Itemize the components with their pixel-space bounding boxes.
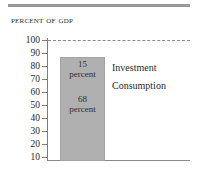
bar-segment-label-investment-value: 15 — [60, 59, 105, 70]
y-tick-label-40: 40 — [31, 112, 41, 124]
y-tick-mark — [42, 105, 47, 106]
y-tick-label-70: 70 — [31, 73, 41, 85]
y-axis-ticks: 100 90 80 70 60 50 40 30 — [0, 0, 47, 171]
reference-line-100 — [48, 40, 190, 41]
y-tick-mark — [42, 144, 47, 145]
y-tick-30: 30 — [0, 125, 47, 137]
y-tick-label-60: 60 — [31, 86, 41, 98]
y-tick-50: 50 — [0, 99, 47, 111]
chart-plot-area: 100 90 80 70 60 50 40 30 — [0, 0, 197, 171]
y-tick-label-30: 30 — [31, 125, 41, 137]
y-axis-line — [47, 38, 48, 161]
y-tick-20: 20 — [0, 138, 47, 150]
legend-label-consumption: Consumption — [112, 80, 166, 92]
bar-segment-label-consumption-unit: percent — [60, 104, 105, 115]
y-tick-label-20: 20 — [31, 138, 41, 150]
y-tick-mark — [42, 66, 47, 67]
y-tick-40: 40 — [0, 112, 47, 124]
y-tick-mark — [42, 53, 47, 54]
legend-label-investment: Investment — [112, 62, 156, 74]
y-tick-label-50: 50 — [31, 99, 41, 111]
y-tick-mark — [42, 92, 47, 93]
y-tick-mark — [42, 40, 47, 41]
y-tick-label-90: 90 — [31, 47, 41, 59]
y-tick-label-10: 10 — [31, 151, 41, 163]
y-tick-100: 100 — [0, 34, 47, 46]
y-tick-label-100: 100 — [26, 34, 40, 46]
y-tick-80: 80 — [0, 60, 47, 72]
y-tick-mark — [42, 157, 47, 158]
y-tick-mark — [42, 118, 47, 119]
y-tick-90: 90 — [0, 47, 47, 59]
y-tick-label-80: 80 — [31, 60, 41, 72]
y-tick-mark — [42, 79, 47, 80]
y-tick-70: 70 — [0, 73, 47, 85]
y-tick-10: 10 — [0, 151, 47, 163]
bar-segment-label-investment-unit: percent — [60, 69, 105, 80]
y-tick-60: 60 — [0, 86, 47, 98]
bar-segment-label-consumption-value: 68 — [60, 94, 105, 105]
y-tick-mark — [42, 131, 47, 132]
